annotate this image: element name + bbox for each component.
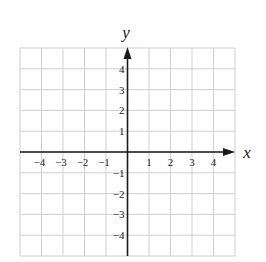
y-tick-label: −2: [113, 188, 125, 200]
y-axis-arrow-icon: [124, 47, 132, 59]
y-tick-label: −1: [113, 167, 125, 179]
y-tick-label: 3: [119, 84, 125, 96]
y-tick-label: 1: [119, 125, 125, 137]
y-tick-label: 2: [119, 104, 125, 116]
y-tick-label: 4: [119, 63, 125, 75]
x-tick-label: −2: [77, 156, 89, 168]
y-tick-label: −4: [113, 229, 125, 241]
x-tick-label: 3: [189, 156, 195, 168]
coordinate-plane: −4−3−2−11234 4321−1−2−3−4 x y: [0, 0, 266, 262]
x-tick-label: 1: [146, 156, 152, 168]
y-tick-label: −3: [113, 208, 125, 220]
x-axis-label: x: [242, 143, 251, 162]
y-axis-label: y: [120, 23, 130, 42]
x-axis-arrow-icon: [223, 148, 235, 156]
x-tick-label: 2: [168, 156, 174, 168]
x-tick-labels: −4−3−2−11234: [34, 156, 217, 168]
x-tick-label: −4: [34, 156, 46, 168]
x-tick-label: −3: [55, 156, 67, 168]
x-tick-label: 4: [211, 156, 217, 168]
x-tick-label: −1: [98, 156, 110, 168]
